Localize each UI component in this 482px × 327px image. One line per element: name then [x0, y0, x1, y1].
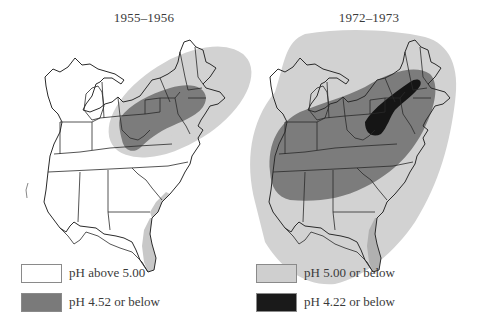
- legend-swatch-white: [21, 264, 62, 283]
- legend-swatch-light-gray: [256, 264, 297, 283]
- legend-item-above-5: pH above 5.00: [21, 262, 145, 284]
- legend-swatch-dark-gray: [21, 293, 62, 312]
- legend-item-4-22: pH 4.22 or below: [256, 291, 395, 313]
- map-1955-1956: [44, 24, 270, 272]
- legend-label: pH 4.52 or below: [69, 294, 160, 310]
- legend-item-5-00: pH 5.00 or below: [256, 262, 395, 284]
- legend-label: pH 4.22 or below: [304, 294, 395, 310]
- legend-label: pH 5.00 or below: [304, 265, 395, 281]
- legend-item-4-52: pH 4.52 or below: [21, 291, 160, 313]
- margin-mark: [26, 183, 28, 198]
- map-1972-1973: [250, 30, 456, 284]
- legend-swatch-black: [256, 293, 297, 312]
- legend-label: pH above 5.00: [69, 265, 145, 281]
